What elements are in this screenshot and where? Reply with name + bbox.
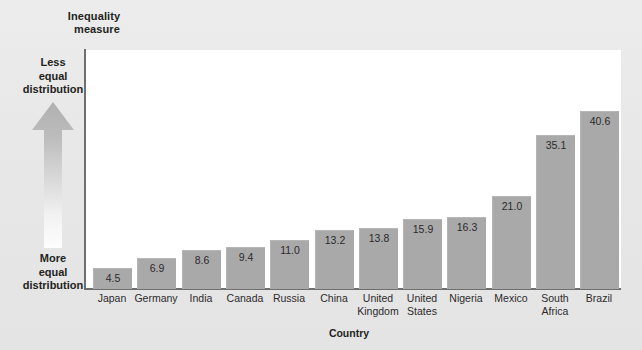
category-label: India xyxy=(178,292,224,305)
bar[interactable]: 8.6 xyxy=(182,250,221,289)
y-axis-title-line-1: Inequality xyxy=(40,10,148,23)
bar[interactable]: 13.2 xyxy=(315,230,354,289)
bar[interactable]: 13.8 xyxy=(359,228,398,289)
category-label: Russia xyxy=(266,292,312,305)
category-label: Japan xyxy=(89,292,135,305)
category-label-line: China xyxy=(311,292,357,305)
bar[interactable]: 16.3 xyxy=(447,217,486,289)
category-label-line: Kingdom xyxy=(355,305,401,318)
category-axis-labels: JapanGermanyIndiaCanadaRussiaChinaUnited… xyxy=(85,292,621,326)
bar-value-label: 9.4 xyxy=(227,251,265,263)
category-label-line: Mexico xyxy=(488,292,534,305)
category-label: Canada xyxy=(222,292,268,305)
bar-value-label: 35.1 xyxy=(537,139,575,151)
category-label-line: Africa xyxy=(532,305,578,318)
category-label-line: Russia xyxy=(266,292,312,305)
bar[interactable]: 11.0 xyxy=(270,240,309,289)
bar[interactable]: 15.9 xyxy=(403,219,442,289)
category-label: UnitedStates xyxy=(399,292,445,317)
category-label-line: United xyxy=(355,292,401,305)
bar-value-label: 4.5 xyxy=(94,272,132,284)
bar[interactable]: 4.5 xyxy=(93,268,132,289)
category-label: Brazil xyxy=(576,292,622,305)
bar[interactable]: 40.6 xyxy=(580,111,619,289)
category-label-line: Brazil xyxy=(576,292,622,305)
bar-value-label: 21.0 xyxy=(493,200,531,212)
category-label-line: States xyxy=(399,305,445,318)
bar[interactable]: 9.4 xyxy=(226,247,265,289)
bar-value-label: 13.2 xyxy=(316,234,354,246)
category-label-line: Japan xyxy=(89,292,135,305)
upward-arrow-icon xyxy=(30,100,76,248)
category-label: UnitedKingdom xyxy=(355,292,401,317)
bar[interactable]: 21.0 xyxy=(492,196,531,289)
category-label: Germany xyxy=(133,292,179,305)
chart-figure: Inequality measure Less equal distributi… xyxy=(0,0,642,350)
bar-value-label: 40.6 xyxy=(581,115,619,127)
bars-layer: 4.56.98.69.411.013.213.815.916.321.035.1… xyxy=(85,50,621,289)
category-label: Nigeria xyxy=(443,292,489,305)
category-label: Mexico xyxy=(488,292,534,305)
category-label-line: United xyxy=(399,292,445,305)
bar-value-label: 15.9 xyxy=(404,223,442,235)
category-label-line: India xyxy=(178,292,224,305)
bar-value-label: 6.9 xyxy=(138,262,176,274)
y-axis-title: Inequality measure xyxy=(40,10,148,36)
category-label-line: Nigeria xyxy=(443,292,489,305)
bar-value-label: 13.8 xyxy=(360,232,398,244)
y-axis-title-line-2: measure xyxy=(40,23,148,36)
x-axis-title: Country xyxy=(0,327,642,339)
bar-value-label: 11.0 xyxy=(271,244,309,256)
category-label: China xyxy=(311,292,357,305)
bar[interactable]: 35.1 xyxy=(536,135,575,289)
bar[interactable]: 6.9 xyxy=(137,258,176,289)
category-label-line: Germany xyxy=(133,292,179,305)
category-label: SouthAfrica xyxy=(532,292,578,317)
bar-value-label: 8.6 xyxy=(183,254,221,266)
category-label-line: Canada xyxy=(222,292,268,305)
bar-value-label: 16.3 xyxy=(448,221,486,233)
category-label-line: South xyxy=(532,292,578,305)
